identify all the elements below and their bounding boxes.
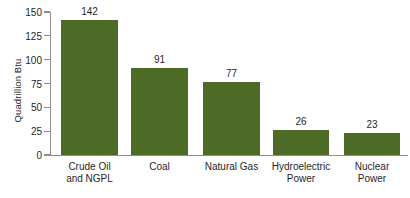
bar-category-line: Natural Gas [193,161,270,173]
y-axis-tick-label: 125 [8,30,42,41]
x-axis-line [44,155,408,156]
bar-value-label: 23 [344,119,400,130]
y-axis-tick-label: 50 [8,102,42,113]
bar[interactable] [344,133,400,155]
bar-category-line: Power [334,173,410,185]
bar-chart-figure: Quadrillion Btu 0255075100125150 142Crud… [0,0,410,198]
bar[interactable] [203,82,260,155]
bar-category-line: Coal [121,161,198,173]
y-axis-tick-label: 0 [8,150,42,161]
bar-category-line: and NGPL [51,173,128,185]
bar-value-label: 77 [203,68,260,79]
bar[interactable] [131,68,188,155]
bar-category-label: Crude Oiland NGPL [51,161,128,184]
bar-category-label: Coal [121,161,198,173]
y-axis-tick-label: 75 [8,78,42,89]
bar-category-line: Hydroelectric [263,161,339,173]
bar-category-label: NuclearPower [334,161,410,184]
bar-value-label: 26 [273,116,329,127]
y-axis-tick-label: 100 [8,54,42,65]
y-axis-tick-label: 150 [8,7,42,18]
bar-category-line: Nuclear [334,161,410,173]
bar-category-line: Crude Oil [51,161,128,173]
bar-category-label: Natural Gas [193,161,270,173]
bar-value-label: 142 [61,6,118,17]
bar-category-label: HydroelectricPower [263,161,339,184]
bar-category-line: Power [263,173,339,185]
bar[interactable] [273,130,329,155]
bar-value-label: 91 [131,54,188,65]
y-axis-tick-label: 25 [8,126,42,137]
bar[interactable] [61,20,118,155]
